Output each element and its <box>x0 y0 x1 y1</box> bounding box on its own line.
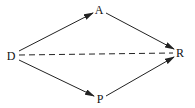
edge-d-to-a <box>19 13 93 51</box>
edge-a-to-r <box>106 13 174 49</box>
node-d-label: D <box>7 50 16 62</box>
node-a-label: A <box>95 4 104 16</box>
edge-d-to-r-dashed <box>19 53 173 55</box>
node-p-label: P <box>97 93 104 105</box>
node-r-label: R <box>176 47 184 59</box>
edge-d-to-p <box>19 60 94 96</box>
edge-p-to-r <box>106 57 174 96</box>
